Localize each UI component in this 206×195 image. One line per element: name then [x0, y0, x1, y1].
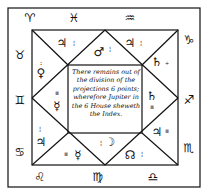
house-planet-venus: ♀ [37, 67, 46, 79]
zodiac-sign-taurus: ♉ [15, 49, 26, 61]
zodiac-sign-scorpio: ♏ [184, 142, 195, 154]
zodiac-sign-aries: ♈ [25, 12, 36, 24]
zodiac-sign-libra: ♎ [148, 171, 159, 183]
center-text: There remains out of the division of the… [70, 68, 142, 128]
zodiac-sign-pisces: ♓ [69, 12, 80, 24]
house-marks: ¦ [139, 40, 143, 45]
zodiac-sign-capricorn: ♑ [184, 34, 195, 46]
house-planet-mercury: ☿ [74, 149, 81, 161]
zodiac-sign-leo: ♌ [35, 171, 46, 183]
house-marks: ≡ [150, 104, 154, 109]
zodiac-sign-gemini: ♊ [15, 94, 26, 106]
house-marks: ¦ [38, 126, 42, 131]
house-planet-jupiter: ♃ [125, 37, 136, 49]
house-planet-saturn: ♄ [147, 90, 158, 102]
house-planet-jupiter: ♃ [36, 136, 47, 148]
house-planet-jupiter: ♃ [57, 37, 68, 49]
house-planet-mars: ♂ [94, 46, 105, 58]
house-marks: ¦ [108, 46, 112, 51]
house-marks: ¦ [99, 140, 103, 145]
house-marks: ÷ [165, 60, 169, 65]
house-planet-node: ☊ [125, 149, 136, 161]
house-marks: ≡ [55, 90, 59, 95]
house-planet-mercury: ☿ [53, 100, 60, 112]
zodiac-sign-cancer: ♋ [15, 146, 26, 158]
zodiac-sign-aquarius: ♒ [125, 12, 136, 24]
house-marks: ¦ [72, 40, 76, 45]
zodiac-sign-sagittarius: ♐ [184, 94, 195, 106]
zodiac-sign-virgo: ♍ [93, 171, 104, 183]
house-marks: ≡ [165, 128, 169, 133]
house-marks: ¦ [140, 151, 144, 156]
house-planet-jupiter: ♃ [152, 126, 163, 138]
house-marks: ≡ [64, 151, 68, 156]
house-planet-saturn: ♄ [152, 56, 163, 68]
house-marks: : [39, 60, 43, 65]
house-planet-moon: ☽ [105, 136, 116, 148]
